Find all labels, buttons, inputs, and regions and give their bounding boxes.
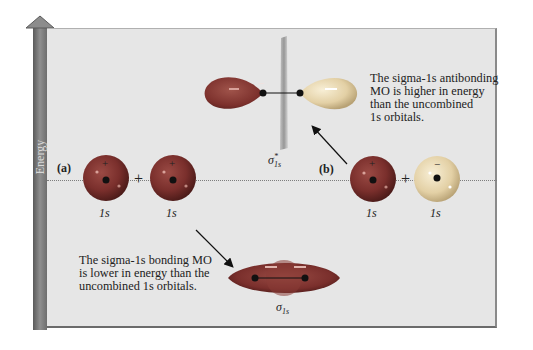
bonding-description: The sigma-1s bonding MO is lower in ener… xyxy=(79,254,212,293)
sign-antibonding-left: − xyxy=(258,77,264,89)
sign-a-right: + xyxy=(169,157,175,169)
antibonding-mo xyxy=(205,36,358,150)
panel-tag-a: (a) xyxy=(57,161,71,176)
plus-operator-b: + xyxy=(401,170,410,188)
antibonding-description: The sigma-1s antibonding MO is higher in… xyxy=(370,72,498,124)
label-1s-a-right: 1s xyxy=(166,206,177,221)
sign-b-right: − xyxy=(434,158,440,170)
label-1s-b-left: 1s xyxy=(366,206,377,221)
orbital-graphics xyxy=(0,0,533,350)
antibonding-symbol: σ*1s xyxy=(268,152,281,169)
sign-b-left: + xyxy=(369,157,375,169)
panel-tag-b: (b) xyxy=(319,162,334,177)
bonding-mo xyxy=(228,260,340,296)
sign-a-left: + xyxy=(102,157,108,169)
label-1s-a-left: 1s xyxy=(99,206,110,221)
label-1s-b-right: 1s xyxy=(430,206,441,221)
plus-operator-a: + xyxy=(134,170,143,188)
arrow-to-antibonding xyxy=(313,127,347,164)
bonding-symbol: σ1s xyxy=(276,300,289,316)
